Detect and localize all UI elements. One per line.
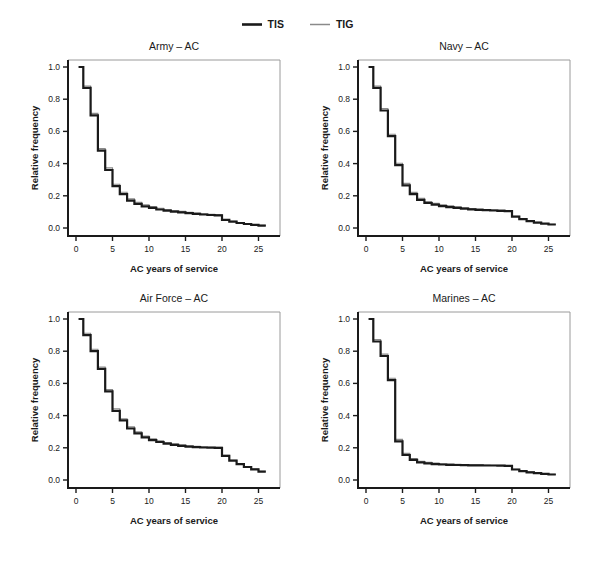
chart-title: Navy – AC xyxy=(439,40,489,52)
tis-line-swatch xyxy=(242,20,262,29)
x-tick-label: 15 xyxy=(471,244,481,254)
y-tick-label: 0.4 xyxy=(48,411,60,421)
air-force-chart-svg: 0.00.20.40.60.81.00510152025Air Force – … xyxy=(28,288,290,536)
plot-frame xyxy=(68,312,280,488)
plot-frame xyxy=(68,60,280,236)
tig-curve xyxy=(79,67,266,225)
legend-label-tis: TIS xyxy=(268,18,284,30)
marines-chart-svg: 0.00.20.40.60.81.00510152025Marines – AC… xyxy=(318,288,580,536)
chart-marines: 0.00.20.40.60.81.00510152025Marines – AC… xyxy=(318,288,580,536)
axis-spines xyxy=(67,312,280,488)
y-tick-label: 0.0 xyxy=(338,475,350,485)
x-tick-label: 15 xyxy=(181,496,191,506)
x-tick-label: 5 xyxy=(110,496,115,506)
x-tick-label: 10 xyxy=(434,496,444,506)
y-tick-label: 0.8 xyxy=(48,94,60,104)
y-tick-label: 0.6 xyxy=(48,126,60,136)
x-tick-label: 25 xyxy=(544,496,554,506)
x-tick-label: 25 xyxy=(254,496,264,506)
legend: TIS TIG xyxy=(0,18,595,30)
legend-item-tis: TIS xyxy=(242,18,284,30)
y-tick-label: 0.2 xyxy=(48,191,60,201)
x-tick-label: 15 xyxy=(181,244,191,254)
x-tick-label: 0 xyxy=(364,244,369,254)
x-tick-label: 10 xyxy=(434,244,444,254)
x-tick-label: 0 xyxy=(74,244,79,254)
chart-army: 0.00.20.40.60.81.00510152025Army – ACAC … xyxy=(28,36,290,284)
y-tick-label: 0.4 xyxy=(338,411,350,421)
x-tick-label: 15 xyxy=(471,496,481,506)
x-tick-label: 5 xyxy=(400,496,405,506)
tis-curve xyxy=(369,67,556,225)
y-tick-label: 1.0 xyxy=(48,62,60,72)
y-tick-label: 0.0 xyxy=(48,223,60,233)
chart-title: Army – AC xyxy=(149,40,200,52)
x-tick-label: 10 xyxy=(144,244,154,254)
y-tick-label: 0.6 xyxy=(48,378,60,388)
chart-title: Marines – AC xyxy=(432,292,495,304)
y-tick-label: 0.4 xyxy=(338,159,350,169)
y-axis-label: Relative frequency xyxy=(319,357,330,442)
x-axis-label: AC years of service xyxy=(420,515,508,526)
x-tick-label: 20 xyxy=(217,496,227,506)
y-axis-label: Relative frequency xyxy=(29,105,40,190)
tis-curve xyxy=(79,67,266,226)
tig-curve xyxy=(79,319,266,471)
x-tick-label: 10 xyxy=(144,496,154,506)
x-tick-label: 20 xyxy=(217,244,227,254)
tis-curve xyxy=(369,319,556,475)
y-tick-label: 1.0 xyxy=(338,314,350,324)
x-tick-label: 0 xyxy=(74,496,79,506)
x-tick-label: 25 xyxy=(544,244,554,254)
legend-label-tig: TIG xyxy=(336,18,354,30)
x-axis-label: AC years of service xyxy=(130,263,218,274)
x-tick-label: 5 xyxy=(110,244,115,254)
y-tick-label: 0.0 xyxy=(338,223,350,233)
x-axis-label: AC years of service xyxy=(420,263,508,274)
y-tick-label: 0.4 xyxy=(48,159,60,169)
y-tick-label: 0.8 xyxy=(48,346,60,356)
y-tick-label: 0.8 xyxy=(338,94,350,104)
y-tick-label: 0.2 xyxy=(48,443,60,453)
y-tick-label: 0.6 xyxy=(338,126,350,136)
plot-frame xyxy=(358,312,570,488)
y-tick-label: 0.6 xyxy=(338,378,350,388)
axis-spines xyxy=(357,312,570,488)
tig-line-swatch xyxy=(310,20,330,29)
figure: TIS TIG 0.00.20.40.60.81.00510152025Army… xyxy=(0,0,595,563)
army-chart-svg: 0.00.20.40.60.81.00510152025Army – ACAC … xyxy=(28,36,290,284)
y-tick-label: 1.0 xyxy=(338,62,350,72)
y-tick-label: 1.0 xyxy=(48,314,60,324)
navy-chart-svg: 0.00.20.40.60.81.00510152025Navy – ACAC … xyxy=(318,36,580,284)
chart-air-force: 0.00.20.40.60.81.00510152025Air Force – … xyxy=(28,288,290,536)
y-tick-label: 0.8 xyxy=(338,346,350,356)
x-tick-label: 20 xyxy=(507,496,517,506)
legend-item-tig: TIG xyxy=(310,18,354,30)
chart-title: Air Force – AC xyxy=(140,292,209,304)
y-tick-label: 0.2 xyxy=(338,443,350,453)
y-axis-label: Relative frequency xyxy=(319,105,330,190)
y-tick-label: 0.2 xyxy=(338,191,350,201)
x-tick-label: 20 xyxy=(507,244,517,254)
chart-navy: 0.00.20.40.60.81.00510152025Navy – ACAC … xyxy=(318,36,580,284)
y-tick-label: 0.0 xyxy=(48,475,60,485)
x-axis-label: AC years of service xyxy=(130,515,218,526)
tig-curve xyxy=(369,67,556,224)
x-tick-label: 5 xyxy=(400,244,405,254)
x-tick-label: 0 xyxy=(364,496,369,506)
tis-curve xyxy=(79,319,266,472)
tig-curve xyxy=(369,319,556,474)
y-axis-label: Relative frequency xyxy=(29,357,40,442)
x-tick-label: 25 xyxy=(254,244,264,254)
